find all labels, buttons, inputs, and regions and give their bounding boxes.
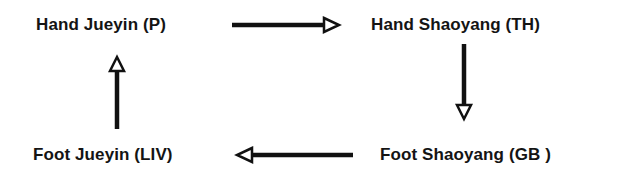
- arrow-down-icon: [457, 44, 471, 119]
- arrow-up-icon: [110, 57, 124, 129]
- arrows-layer: [0, 0, 617, 178]
- arrow-left-icon: [237, 148, 353, 162]
- arrow-right-icon: [232, 18, 339, 32]
